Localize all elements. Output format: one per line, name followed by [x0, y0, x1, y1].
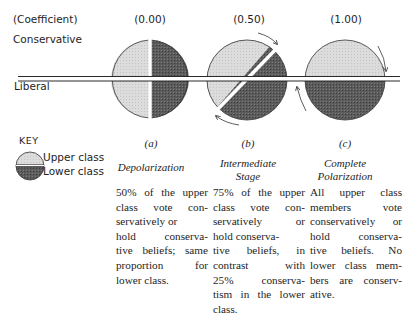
panel-b-title: Intermediate Stage: [203, 157, 293, 183]
key-swatch-icon: [15, 151, 45, 181]
panel-c-title-line-1: Complete: [300, 157, 390, 170]
description-line: tism in the lower: [213, 287, 305, 302]
panel-c-description: All upper class members vote conservativ…: [310, 185, 402, 302]
description-line: members vote: [310, 200, 402, 215]
description-line: conservatively or: [310, 214, 402, 229]
description-line: class vote con-: [213, 200, 305, 215]
description-line: class.: [213, 302, 305, 316]
panel-b-letter: (b): [208, 137, 288, 149]
description-line: tive beliefs. No: [310, 243, 402, 258]
key-title: KEY: [19, 135, 39, 146]
panel-b-title-line-1: Intermediate: [203, 157, 293, 170]
panel-b-description: 75% of the upper class vote con- servati…: [213, 185, 305, 316]
key-lower-class-label: Lower class: [43, 165, 104, 177]
conservative-liberal-divider: [18, 77, 400, 82]
description-line: servatively or: [116, 214, 208, 229]
panel-c-title: Complete Polarization: [300, 157, 390, 183]
description-line: lower class mem-: [310, 258, 402, 273]
key-upper-class-label: Upper class: [43, 151, 104, 163]
description-line: contrast with: [213, 258, 305, 273]
panel-b-title-line-2: Stage: [203, 170, 293, 183]
description-line: tive beliefs; same: [116, 243, 208, 258]
description-line: class vote con-: [116, 200, 208, 215]
description-line: ative.: [310, 287, 402, 302]
panel-a-title: Depolarization: [106, 161, 196, 174]
description-line: 75% of the upper: [213, 185, 305, 200]
description-line: 50% of the upper: [116, 185, 208, 200]
panel-a-title-line: Depolarization: [106, 161, 196, 174]
description-line: servatively or: [213, 214, 305, 229]
panel-c-letter: (c): [305, 137, 385, 149]
panel-a-description: 50% of the upper class vote con- servati…: [116, 185, 208, 287]
description-line: hold conserva-: [116, 229, 208, 244]
description-line: proportion for: [116, 258, 208, 273]
description-line: tive beliefs, in: [213, 243, 305, 258]
panel-a-letter: (a): [111, 137, 191, 149]
description-line: 25% conserva-: [213, 273, 305, 288]
description-line: hold conserva-: [213, 229, 305, 244]
description-line: lower class.: [116, 273, 208, 288]
description-line: All upper class: [310, 185, 402, 200]
description-line: hold conserva-: [310, 229, 402, 244]
panel-c-title-line-2: Polarization: [300, 170, 390, 183]
description-line: bers are conserv-: [310, 273, 402, 288]
